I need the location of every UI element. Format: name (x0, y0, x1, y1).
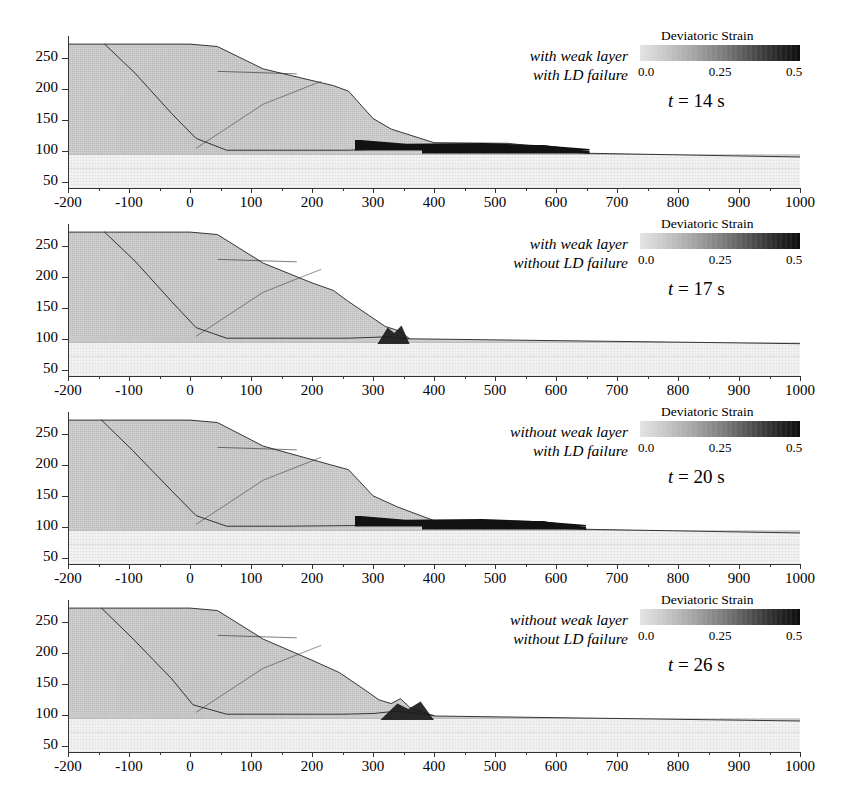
x-tick (312, 564, 313, 569)
figure-root: -200-10001002003004005006007008009001000… (0, 0, 849, 808)
x-tick (556, 188, 557, 193)
y-tick-label: 150 (12, 110, 58, 127)
x-tick (678, 564, 679, 569)
x-tick-minor (343, 188, 344, 191)
y-tick (62, 151, 68, 152)
x-tick-label: 0 (160, 194, 220, 211)
x-tick-label: 700 (587, 570, 647, 587)
x-tick-label: 700 (587, 758, 647, 775)
x-tick-label: 0 (160, 758, 220, 775)
bench-crack-line (217, 447, 296, 449)
x-tick-label: 500 (465, 382, 525, 399)
x-tick (129, 376, 130, 381)
x-tick (800, 188, 801, 193)
condition-line-1: with weak layer (430, 46, 628, 65)
x-tick-minor (526, 564, 527, 567)
y-tick-label: 100 (12, 517, 58, 534)
y-tick-label: 250 (12, 236, 58, 253)
secondary-shear-band (196, 457, 321, 524)
colorbar-tick-label: 0.0 (623, 440, 669, 456)
x-tick (556, 752, 557, 757)
x-tick-minor (282, 752, 283, 755)
x-tick (68, 752, 69, 757)
x-tick-label: 100 (221, 194, 281, 211)
colorbar-tick-label: 0.0 (623, 64, 669, 80)
x-tick (617, 188, 618, 193)
x-tick-minor (343, 376, 344, 379)
x-tick (495, 376, 496, 381)
x-tick-minor (99, 188, 100, 191)
x-tick-label: 400 (404, 194, 464, 211)
x-tick-minor (770, 752, 771, 755)
y-tick-label: 250 (12, 424, 58, 441)
x-tick-minor (343, 564, 344, 567)
panel-1: -200-10001002003004005006007008009001000… (0, 28, 849, 216)
x-tick-label: -100 (99, 194, 159, 211)
colorbar-tick-label: 0.5 (771, 64, 817, 80)
x-tick-label: 700 (587, 194, 647, 211)
x-tick-label: 500 (465, 194, 525, 211)
x-tick-label: 600 (526, 570, 586, 587)
x-tick-minor (99, 752, 100, 755)
x-tick (617, 376, 618, 381)
x-tick-label: 200 (282, 570, 342, 587)
x-tick-label: 800 (648, 382, 708, 399)
x-tick (312, 752, 313, 757)
y-tick (62, 653, 68, 654)
panel-3: -200-10001002003004005006007008009001000… (0, 404, 849, 592)
basal-shear-band (105, 232, 410, 339)
colorbar-tick-label: 0.0 (623, 628, 669, 644)
x-tick-minor (526, 752, 527, 755)
x-tick-label: -200 (38, 382, 98, 399)
x-tick-label: 100 (221, 570, 281, 587)
x-tick (129, 752, 130, 757)
x-tick (434, 564, 435, 569)
condition-annotation: without weak layerwithout LD failure (430, 610, 628, 648)
y-axis-line (68, 412, 69, 564)
x-tick-label: -100 (99, 570, 159, 587)
colorbar-gradient (640, 609, 800, 625)
y-tick-label: 250 (12, 612, 58, 629)
time-value-text: = 26 s (673, 654, 724, 675)
x-tick-minor (221, 188, 222, 191)
condition-annotation: with weak layerwith LD failure (430, 46, 628, 84)
y-tick (62, 308, 68, 309)
x-tick (312, 188, 313, 193)
x-tick (68, 376, 69, 381)
x-tick (556, 376, 557, 381)
y-tick-label: 50 (12, 172, 58, 189)
x-tick (678, 188, 679, 193)
x-tick-label: 900 (709, 194, 769, 211)
x-tick-label: 900 (709, 570, 769, 587)
y-tick (62, 339, 68, 340)
y-tick (62, 465, 68, 466)
x-tick-label: 600 (526, 382, 586, 399)
x-tick (129, 188, 130, 193)
x-tick-minor (587, 564, 588, 567)
x-tick-minor (770, 564, 771, 567)
time-label: t = 26 s (668, 654, 725, 676)
x-tick-minor (160, 752, 161, 755)
colorbar-title: Deviatoric Strain (661, 404, 754, 420)
x-tick-label: 400 (404, 570, 464, 587)
y-tick-label: 50 (12, 548, 58, 565)
bench-crack-line (217, 71, 296, 73)
x-tick (251, 376, 252, 381)
y-tick (62, 622, 68, 623)
x-tick (800, 564, 801, 569)
secondary-shear-band (196, 81, 321, 148)
x-tick-label: 300 (343, 194, 403, 211)
colorbar-tick-label: 0.25 (697, 628, 743, 644)
x-tick (800, 752, 801, 757)
x-tick-label: 1000 (770, 758, 830, 775)
y-tick (62, 527, 68, 528)
y-tick (62, 684, 68, 685)
y-tick-label: 200 (12, 455, 58, 472)
x-tick-label: 500 (465, 570, 525, 587)
condition-line-1: without weak layer (430, 422, 628, 441)
y-tick-label: 100 (12, 329, 58, 346)
y-axis-line (68, 224, 69, 376)
x-tick-label: -100 (99, 758, 159, 775)
x-tick-label: 200 (282, 194, 342, 211)
x-tick-label: -100 (99, 382, 159, 399)
